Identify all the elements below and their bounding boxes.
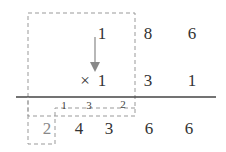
row1-digit-0: 1 [98,25,107,42]
result-digit-3: 6 [185,120,194,137]
highlight-box-upper [28,13,135,116]
row1-digit-2: 6 [188,25,197,42]
carry-digit-0: 1 [61,100,67,111]
row2-digit-1: 3 [144,72,153,89]
multiply-sign: × [80,72,90,89]
result-digit-1: 3 [105,120,114,137]
result-carry-out: 2 [43,120,52,137]
row2-digit-2: 1 [188,72,197,89]
result-digit-2: 6 [145,120,154,137]
row2-digit-0: 1 [98,72,107,89]
row1-digit-1: 8 [144,25,153,42]
result-digit-0: 4 [75,120,84,137]
carry-digit-1: 3 [86,100,92,111]
carry-digit-2: 2 [120,99,126,110]
